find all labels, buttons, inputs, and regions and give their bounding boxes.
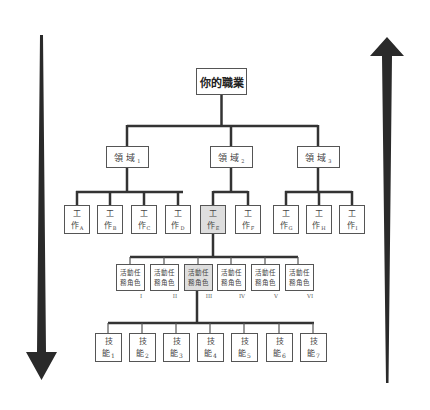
job-node-c: 工 作C: [131, 205, 157, 234]
role-node-6: 活動任 務角色: [285, 264, 314, 291]
skill-index: 4: [213, 352, 217, 359]
role-node-2: 活動任 務角色: [150, 264, 179, 291]
skill-label-line1: 技: [139, 336, 147, 348]
job-label-line1: 工: [209, 208, 217, 220]
role-label-line2: 務角色: [221, 278, 242, 288]
skill-index: 7: [316, 352, 320, 359]
job-index: H: [321, 225, 325, 231]
domain-node-3: 領 域3: [297, 146, 340, 168]
role-numeral: II: [168, 293, 182, 299]
job-label-line1: 工: [106, 208, 114, 220]
skill-node-7: 技 能7: [300, 333, 327, 362]
role-node-5: 活動任 務角色: [251, 264, 280, 291]
role-label-line2: 務角色: [154, 278, 175, 288]
role-label-line2: 務角色: [255, 278, 276, 288]
job-label-line2: 作: [280, 221, 288, 230]
skill-label-line1: 技: [105, 336, 113, 348]
skill-label-line1: 技: [173, 336, 181, 348]
job-node-i: 工 作I: [339, 205, 365, 234]
job-node-e-highlighted: 工 作E: [200, 205, 226, 234]
skill-index: 5: [247, 352, 251, 359]
job-index: G: [289, 225, 293, 231]
role-label-line1: 活動任: [221, 268, 242, 278]
skill-label-line1: 技: [276, 336, 284, 348]
domain-label: 領 域: [114, 151, 135, 164]
job-node-f: 工 作F: [235, 205, 261, 234]
up-arrow-icon: [370, 37, 404, 383]
role-label-line2: 務角色: [289, 278, 310, 288]
job-index: E: [216, 225, 220, 231]
role-label-line1: 活動任: [255, 268, 276, 278]
domain-index: 1: [137, 158, 140, 164]
skill-label-line2: 能: [204, 349, 212, 358]
job-label-line2: 作: [242, 221, 250, 230]
job-index: A: [80, 225, 84, 231]
skill-label-line2: 能: [170, 349, 178, 358]
job-label-line2: 作: [207, 221, 215, 230]
skill-label-line2: 能: [273, 349, 281, 358]
job-index: B: [113, 225, 117, 231]
job-label-line2: 作: [104, 221, 112, 230]
skill-node-5: 技 能5: [231, 333, 258, 362]
job-label-line1: 工: [73, 208, 81, 220]
skill-node-2: 技 能2: [129, 333, 156, 362]
role-numeral: III: [202, 293, 216, 299]
skill-index: 3: [179, 352, 183, 359]
skill-node-4: 技 能4: [197, 333, 224, 362]
job-node-a: 工 作A: [64, 205, 90, 234]
skill-label-line1: 技: [207, 336, 215, 348]
role-node-1: 活動任 務角色: [116, 264, 145, 291]
job-label-line1: 工: [174, 208, 182, 220]
job-index: I: [356, 225, 358, 231]
domain-label: 領 域: [305, 151, 326, 164]
job-node-d: 工 作D: [165, 205, 191, 234]
job-label-line1: 工: [282, 208, 290, 220]
role-label-line1: 活動任: [120, 268, 141, 278]
job-index: D: [180, 225, 184, 231]
skill-node-3: 技 能3: [163, 333, 190, 362]
domain-label: 領 域: [218, 151, 239, 164]
job-label-line2: 作: [312, 221, 320, 230]
skill-label-line1: 技: [310, 336, 318, 348]
role-label-line1: 活動任: [188, 268, 209, 278]
career-hierarchy-diagram: 你的職業 領 域1 領 域2 領 域3 工 作A 工 作B 工 作C 工 作D …: [0, 0, 430, 410]
role-label-line2: 務角色: [120, 278, 141, 288]
skill-label-line2: 能: [238, 349, 246, 358]
job-label-line2: 作: [138, 221, 146, 230]
job-index: C: [147, 225, 151, 231]
skill-index: 6: [282, 352, 286, 359]
skill-node-1: 技 能1: [95, 333, 122, 362]
role-numeral: I: [134, 293, 148, 299]
career-label: 你的職業: [200, 74, 244, 90]
domain-node-2: 領 域2: [210, 146, 253, 168]
skill-index: 1: [111, 352, 115, 359]
skill-label-line2: 能: [136, 349, 144, 358]
job-node-b: 工 作B: [97, 205, 123, 234]
domain-node-1: 領 域1: [106, 146, 149, 168]
role-numeral: V: [269, 293, 283, 299]
skill-label-line2: 能: [307, 349, 315, 358]
job-node-h: 工 作H: [306, 205, 332, 234]
job-label-line2: 作: [347, 221, 355, 230]
role-numeral: IV: [235, 293, 249, 299]
job-node-g: 工 作G: [273, 205, 299, 234]
skill-node-6: 技 能6: [266, 333, 293, 362]
skill-label-line1: 技: [241, 336, 249, 348]
job-label-line1: 工: [140, 208, 148, 220]
domain-index: 3: [328, 158, 331, 164]
job-label-line2: 作: [171, 221, 179, 230]
job-index: F: [251, 225, 254, 231]
job-label-line1: 工: [348, 208, 356, 220]
role-node-3-highlighted: 活動任 務角色: [184, 264, 213, 291]
role-numeral: VI: [303, 293, 317, 299]
career-node: 你的職業: [196, 68, 247, 95]
skill-index: 2: [145, 352, 149, 359]
domain-index: 2: [241, 158, 244, 164]
job-label-line2: 作: [71, 221, 79, 230]
role-label-line1: 活動任: [154, 268, 175, 278]
job-label-line1: 工: [244, 208, 252, 220]
down-arrow-icon: [26, 35, 57, 380]
job-label-line1: 工: [315, 208, 323, 220]
role-label-line2: 務角色: [188, 278, 209, 288]
role-node-4: 活動任 務角色: [217, 264, 246, 291]
